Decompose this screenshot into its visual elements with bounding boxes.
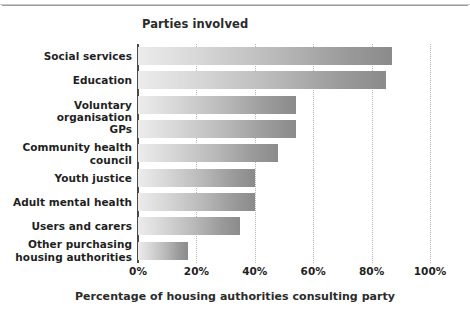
chart-title: Parties involved <box>142 17 248 31</box>
bar <box>138 144 278 162</box>
category-axis-labels: Social servicesEducationVoluntary organi… <box>0 44 132 263</box>
chart-page: Parties involved Social servicesEducatio… <box>0 0 470 320</box>
bar <box>138 242 188 260</box>
bar-row <box>138 44 430 68</box>
x-axis-title: Percentage of housing authorities consul… <box>0 290 470 303</box>
bar-row <box>138 117 430 141</box>
category-label: Other purchasinghousing authorities <box>0 238 132 263</box>
category-label: Users and carers <box>0 220 132 232</box>
plot-area <box>138 44 430 263</box>
bar-row <box>138 166 430 190</box>
category-label: Education <box>0 74 132 86</box>
category-label-line: Youth justice <box>0 172 132 184</box>
category-label: GPs <box>0 123 132 135</box>
category-label: Adult mental health <box>0 196 132 208</box>
bar-row <box>138 68 430 92</box>
x-axis-tick-labels: 0%20%40%60%80%100% <box>0 265 470 281</box>
category-label-line: Community health <box>0 141 132 153</box>
x-tick-label: 60% <box>301 265 326 277</box>
category-label-line: housing authorities <box>0 251 132 263</box>
bar <box>138 47 392 65</box>
bar <box>138 96 296 114</box>
category-label: Voluntary organisation <box>0 99 132 124</box>
x-tick-label: 80% <box>359 265 384 277</box>
x-tick-label: 0% <box>129 265 147 277</box>
x-tick-label: 40% <box>242 265 267 277</box>
bar-row <box>138 190 430 214</box>
scan-top-rule-shadow <box>2 5 468 6</box>
category-label-line: Adult mental health <box>0 196 132 208</box>
category-label: Youth justice <box>0 172 132 184</box>
bar-row <box>138 93 430 117</box>
bar-row <box>138 214 430 238</box>
bar-row <box>138 141 430 165</box>
x-tick-label: 100% <box>414 265 446 277</box>
category-label-line: Voluntary organisation <box>0 99 132 124</box>
bar <box>138 193 255 211</box>
category-label-line: Other purchasing <box>0 238 132 250</box>
x-tick-label: 20% <box>184 265 209 277</box>
category-label-line: GPs <box>0 123 132 135</box>
category-label-line: Education <box>0 74 132 86</box>
bar <box>138 120 296 138</box>
category-label-line: council <box>0 154 132 166</box>
gridline-100 <box>430 44 432 263</box>
bar-row <box>138 239 430 263</box>
category-label-line: Social services <box>0 50 132 62</box>
bar <box>138 169 255 187</box>
bar <box>138 71 386 89</box>
category-label: Social services <box>0 50 132 62</box>
category-label: Community healthcouncil <box>0 141 132 166</box>
bar <box>138 217 240 235</box>
category-label-line: Users and carers <box>0 220 132 232</box>
